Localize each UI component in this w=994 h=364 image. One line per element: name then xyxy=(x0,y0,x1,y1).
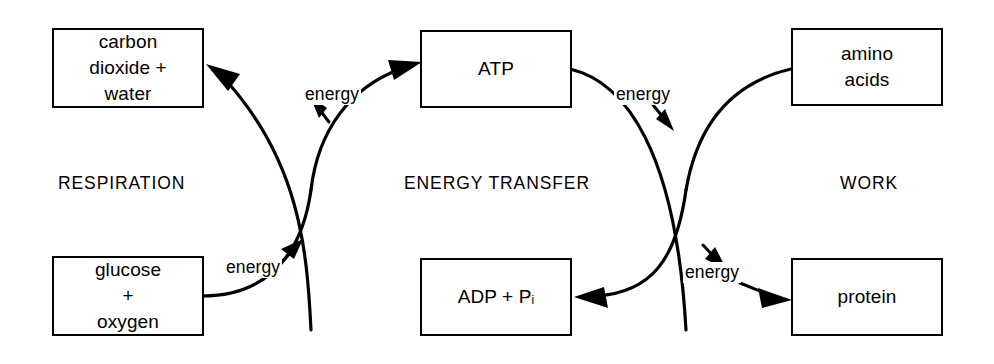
tick-energy-glucose-release xyxy=(281,239,303,263)
section-label-energy-transfer: ENERGY TRANSFER xyxy=(404,173,590,194)
section-label-respiration: RESPIRATION xyxy=(58,173,185,194)
arrow-energy-to-protein xyxy=(740,283,792,308)
box-glucose-oxygen: glucose + oxygen xyxy=(52,256,204,336)
arrow-to-protein xyxy=(570,69,686,330)
box-carbon-dioxide-water: carbon dioxide + water xyxy=(52,28,204,108)
box-atp: ATP xyxy=(420,30,572,108)
box-protein: protein xyxy=(791,258,943,336)
box-amino-acids: amino acids xyxy=(791,28,943,106)
energy-label-atp-to-work: energy xyxy=(614,84,672,105)
section-label-work: WORK xyxy=(840,173,898,194)
diagram-canvas: carbon dioxide + water ATP amino acids g… xyxy=(0,0,994,364)
box-adp-pi: ADP + Pi xyxy=(420,258,572,336)
energy-label-glucose-release: energy xyxy=(224,257,282,278)
energy-label-work-output: energy xyxy=(683,262,741,283)
arrow-to-carbon-dioxide xyxy=(206,64,311,330)
energy-label-respiration-to-atp: energy xyxy=(303,84,361,105)
tick-energy-atp-to-work xyxy=(653,105,674,131)
adp-pi-main-label: ADP + P xyxy=(458,284,532,310)
